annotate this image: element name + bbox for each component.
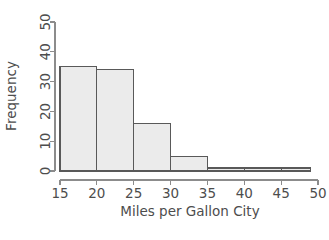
histogram-bar: [60, 67, 97, 171]
y-axis-tick-label: 0: [37, 167, 53, 176]
histogram-bar: [281, 168, 310, 171]
histogram-bar: [244, 168, 281, 171]
y-axis-tick-label: 20: [37, 103, 53, 120]
histogram-bar: [171, 156, 208, 171]
histogram-chart: 01020304050 1520253035404550 Frequency M…: [0, 0, 329, 240]
histogram-bar: [97, 70, 134, 171]
x-axis-tick-label: 35: [199, 185, 216, 201]
y-axis-tick-label: 50: [37, 13, 53, 30]
histogram-bar: [134, 123, 171, 171]
x-axis-tick-label: 40: [236, 185, 253, 201]
x-axis-tick-label: 20: [88, 185, 105, 201]
y-axis-tick-label: 40: [37, 43, 53, 60]
y-axis: 01020304050: [37, 13, 55, 175]
histogram-bar: [207, 168, 244, 171]
x-axis-title: Miles per Gallon City: [120, 203, 259, 219]
x-axis-tick-label: 15: [51, 185, 68, 201]
bars-group: [60, 67, 311, 171]
x-axis-tick-label: 45: [273, 185, 290, 201]
y-axis-title: Frequency: [3, 61, 19, 131]
x-axis-tick-label: 25: [125, 185, 142, 201]
x-axis-tick-label: 30: [162, 185, 179, 201]
x-axis: 1520253035404550: [51, 180, 326, 201]
y-axis-tick-label: 10: [37, 133, 53, 150]
cut-off-caption: [0, 231, 329, 240]
x-axis-tick-label: 50: [309, 185, 326, 201]
chart-canvas: 01020304050 1520253035404550 Frequency M…: [0, 0, 329, 240]
y-axis-tick-label: 30: [37, 73, 53, 90]
